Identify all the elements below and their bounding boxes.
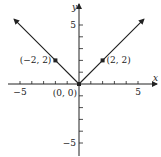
point-marker [77, 82, 81, 86]
labeled-points: (−2, 2)(0, 0)(2, 2) [20, 55, 131, 98]
absolute-value-graph: −555−5 (−2, 2)(0, 0)(2, 2) x y [0, 0, 161, 157]
y-axis-label: y [71, 2, 78, 12]
point-marker [53, 58, 57, 62]
y-tick-label: −5 [63, 138, 77, 148]
curve-branch [14, 19, 79, 84]
point-label: (−2, 2) [20, 55, 52, 65]
y-tick-label: 5 [70, 20, 76, 30]
point-label: (0, 0) [53, 88, 77, 98]
x-tick-label: 5 [135, 87, 141, 97]
x-tick-label: −5 [13, 87, 27, 97]
point-label: (2, 2) [107, 55, 131, 65]
point-marker [101, 58, 105, 62]
x-axis-label: x [153, 73, 158, 83]
curve-branch [79, 19, 144, 84]
